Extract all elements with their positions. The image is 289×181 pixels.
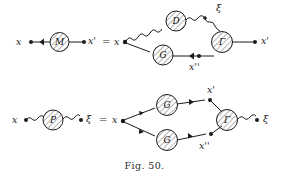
mass-operator-rhs: D G Γ — [123, 11, 257, 65]
label-lhs-x-bottom: x — [12, 115, 17, 125]
polarization-operator-rhs: G G Γ — [121, 95, 259, 151]
blob-label-Gamma-top: Γ — [218, 37, 226, 47]
feynman-diagram-canvas: M D G Γ P — [0, 0, 289, 181]
figure-caption: Fig. 50. — [0, 160, 289, 171]
blob-label-G-upper: G — [163, 100, 170, 110]
label-rhs-xprime-top: x' — [261, 36, 269, 46]
equals-sign-bottom: = — [99, 114, 107, 125]
figure-50: M D G Γ P — [0, 0, 289, 181]
label-xi-top: ξ — [216, 3, 221, 13]
blob-label-P: P — [49, 115, 57, 125]
label-lhs-xprime-top: x' — [88, 36, 96, 46]
label-rhs-x-top: x — [114, 37, 119, 47]
blob-label-M: M — [54, 37, 65, 47]
mass-operator-lhs: M — [29, 33, 86, 52]
label-xdoubleprime-top: x'' — [189, 62, 200, 72]
label-lhs-xi-bottom: ξ — [86, 114, 91, 124]
equals-sign-top: = — [102, 36, 110, 47]
blob-label-D: D — [171, 16, 179, 26]
label-rhs-xi-bottom: ξ — [263, 114, 268, 124]
label-xprime-bottom: x' — [207, 85, 215, 95]
polarization-operator-lhs: P — [24, 110, 83, 130]
label-rhs-x-bottom: x — [112, 115, 117, 125]
label-xdoubleprime-bottom: x'' — [199, 141, 210, 151]
label-lhs-x-top: x — [16, 37, 21, 47]
blob-label-G-lower: G — [163, 135, 170, 145]
blob-label-Gamma-bottom: Γ — [223, 115, 231, 125]
blob-label-G-top: G — [159, 50, 166, 60]
